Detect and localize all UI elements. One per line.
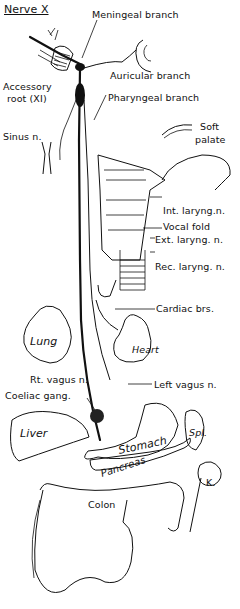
label-kidney: K. <box>206 478 215 488</box>
label-cardiac-branches: Cardiac brs. <box>156 304 214 314</box>
label-sinus-nerve: Sinus n. <box>3 132 42 142</box>
label-auricular-branch: Auricular branch <box>110 71 190 81</box>
label-pharyngeal-branch: Pharyngeal branch <box>108 93 199 103</box>
coeliac-ganglion <box>90 409 104 423</box>
label-int-laryng: Int. laryng.n. <box>163 206 225 216</box>
label-meningeal-branch: Meningeal branch <box>92 10 179 20</box>
ear <box>136 40 151 72</box>
label-liver: Liver <box>20 428 47 439</box>
label-colon: Colon <box>88 500 115 510</box>
title-nerve-x: Nerve X <box>4 4 49 15</box>
left-vagus-trunk <box>84 100 110 380</box>
label-rec-laryng: Rec. laryng. n. <box>155 262 225 272</box>
label-lung: Lung <box>30 336 57 347</box>
label-spleen: Spl. <box>189 428 207 438</box>
label-left-vagus: Left vagus n. <box>154 380 217 390</box>
label-right-vagus: Rt. vagus n. <box>30 375 88 385</box>
label-accessory-root-2: root (XI) <box>7 94 47 104</box>
label-accessory-root-1: Accessory <box>3 82 52 92</box>
label-soft-palate-2: palate <box>195 135 225 145</box>
label-soft-palate-1: Soft <box>200 122 219 132</box>
label-heart: Heart <box>132 345 159 355</box>
label-vocal-fold: Vocal fold <box>163 222 210 232</box>
label-coeliac-ganglion: Coeliac gang. <box>5 391 71 401</box>
label-ext-laryng: Ext. laryng. n. <box>155 235 223 245</box>
heart <box>114 315 151 362</box>
